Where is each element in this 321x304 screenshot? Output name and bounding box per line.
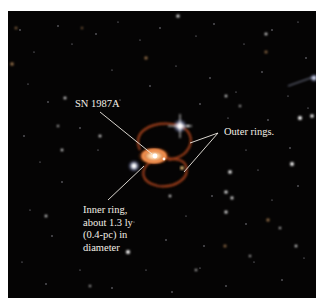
- inner-ring-label: Inner ring, about 1.3 ly (0.4-pc) in dia…: [83, 204, 133, 254]
- inner-ring-label-line: Inner ring,: [83, 204, 133, 217]
- inner-ring-label-line: (0.4-pc) in: [83, 229, 133, 242]
- sn-1987a-label: SN 1987A: [75, 98, 120, 111]
- astronomical-image: [8, 11, 316, 298]
- inner-ring-label-line: about 1.3 ly: [83, 217, 133, 230]
- star-field: [8, 11, 316, 298]
- inner-ring-label-line: diameter: [83, 242, 133, 255]
- outer-rings-label: Outer rings.: [224, 126, 274, 139]
